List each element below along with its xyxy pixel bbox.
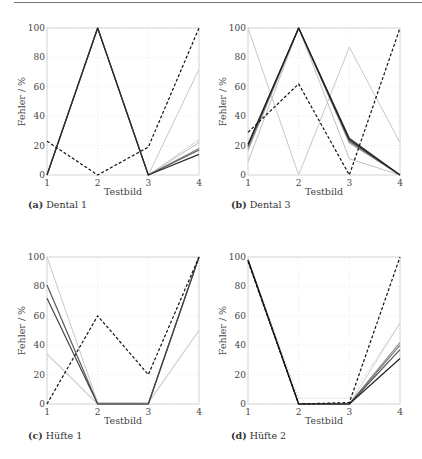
x-tick-label: 3 — [145, 407, 151, 417]
x-tick-label: 2 — [95, 407, 101, 417]
series-line-mid-1 — [248, 260, 400, 404]
series-line-light-1 — [248, 260, 400, 404]
x-axis-label: Testbild — [104, 186, 142, 197]
series-group — [248, 28, 400, 175]
y-tick-label: 100 — [28, 23, 45, 33]
x-tick-label: 2 — [95, 178, 101, 188]
subplot-huefte-2: 0204060801001234TestbildFehler / % (d) H… — [211, 229, 422, 458]
axes-frame — [47, 257, 199, 404]
chart-canvas: 0204060801001234TestbildFehler / % — [211, 229, 422, 458]
y-axis-label: Fehler / % — [217, 306, 228, 355]
y-tick-label: 20 — [235, 141, 247, 151]
series-line-light-dotted — [248, 258, 400, 398]
y-tick-label: 40 — [34, 111, 46, 121]
y-axis-label: Fehler / % — [217, 77, 228, 126]
x-tick-label: 3 — [145, 178, 151, 188]
x-tick-label: 4 — [196, 407, 202, 417]
series-group — [47, 28, 199, 175]
y-axis-ticks: 020406080100 — [229, 23, 246, 180]
subplot-dental-1: 0204060801001234TestbildFehler / % (a) D… — [0, 0, 211, 229]
series-line-dark-1 — [47, 257, 199, 404]
caption-tag: (c) — [28, 430, 43, 441]
y-tick-label: 40 — [34, 340, 46, 350]
series-line-reference-dashed — [47, 257, 199, 404]
series-group — [47, 257, 199, 404]
series-line-mid-2 — [248, 260, 400, 404]
caption-tag: (d) — [231, 430, 247, 441]
x-tick-label: 1 — [44, 178, 50, 188]
x-tick-label: 2 — [296, 178, 302, 188]
series-line-light-1 — [47, 257, 199, 403]
series-line-dark-2 — [248, 260, 400, 404]
series-line-dark-2 — [47, 28, 199, 175]
y-axis-label: Fehler / % — [16, 306, 27, 355]
y-tick-label: 100 — [229, 23, 246, 33]
caption: (c) Hüfte 1 — [28, 430, 82, 441]
y-tick-label: 60 — [34, 82, 46, 92]
caption: (a) Dental 1 — [28, 199, 87, 210]
y-tick-label: 40 — [235, 111, 247, 121]
series-line-reference-dashed — [248, 257, 400, 404]
y-tick-label: 60 — [235, 311, 247, 321]
y-axis-ticks: 020406080100 — [229, 252, 246, 409]
x-tick-label: 4 — [397, 178, 403, 188]
y-tick-label: 60 — [235, 82, 247, 92]
y-tick-label: 20 — [34, 141, 46, 151]
y-tick-label: 80 — [34, 52, 46, 62]
caption-title: Hüfte 2 — [250, 430, 286, 441]
x-tick-label: 1 — [245, 178, 251, 188]
caption-tag: (b) — [231, 199, 247, 210]
caption-title: Dental 3 — [250, 199, 291, 210]
y-tick-label: 100 — [229, 252, 246, 262]
y-axis-ticks: 020406080100 — [28, 23, 45, 180]
grid — [248, 257, 400, 404]
series-line-light-2 — [47, 331, 199, 405]
x-tick-label: 4 — [397, 407, 403, 417]
x-tick-label: 1 — [44, 407, 50, 417]
caption-tag: (a) — [28, 199, 43, 210]
x-tick-label: 2 — [296, 407, 302, 417]
y-tick-label: 20 — [235, 370, 247, 380]
series-line-light-up — [248, 28, 400, 175]
x-axis-label: Testbild — [305, 186, 343, 197]
chart-canvas: 0204060801001234TestbildFehler / % — [0, 0, 211, 229]
series-group — [248, 257, 400, 404]
grid — [47, 257, 199, 404]
x-tick-label: 1 — [245, 407, 251, 417]
x-tick-label: 3 — [346, 407, 352, 417]
chart-canvas: 0204060801001234TestbildFehler / % — [211, 0, 422, 229]
caption-title: Dental 1 — [46, 199, 87, 210]
y-tick-label: 40 — [235, 340, 247, 350]
y-tick-label: 100 — [28, 252, 45, 262]
series-line-mid-1 — [47, 257, 199, 404]
x-axis-label: Testbild — [104, 415, 142, 426]
subplot-dental-3: 0204060801001234TestbildFehler / % (b) D… — [211, 0, 422, 229]
caption-title: Hüfte 1 — [46, 430, 82, 441]
axes-frame — [248, 257, 400, 404]
y-tick-label: 80 — [235, 52, 247, 62]
y-axis-ticks: 020406080100 — [28, 252, 45, 409]
x-axis-label: Testbild — [305, 415, 343, 426]
y-tick-label: 20 — [34, 370, 46, 380]
y-tick-label: 60 — [34, 311, 46, 321]
y-axis-label: Fehler / % — [16, 77, 27, 126]
series-line-dark-1 — [248, 260, 400, 404]
x-tick-label: 4 — [196, 178, 202, 188]
x-tick-label: 3 — [346, 178, 352, 188]
chart-canvas: 0204060801001234TestbildFehler / % — [0, 229, 211, 458]
caption: (d) Hüfte 2 — [231, 430, 286, 441]
subplot-huefte-1: 0204060801001234TestbildFehler / % (c) H… — [0, 229, 211, 458]
y-tick-label: 80 — [34, 281, 46, 291]
y-tick-label: 80 — [235, 281, 247, 291]
caption: (b) Dental 3 — [231, 199, 291, 210]
